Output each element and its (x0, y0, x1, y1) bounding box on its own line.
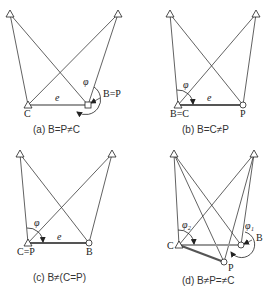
triangle-icon (6, 10, 14, 17)
baseline-label: e (55, 92, 60, 103)
sight-line (243, 14, 256, 105)
circle-icon (221, 259, 227, 265)
pointer-arrow (244, 240, 252, 244)
triangle-icon (252, 10, 260, 17)
point-label-bc: B=C (170, 108, 189, 119)
angle-label-phi2: φ₂ (182, 219, 192, 230)
sight-line (89, 154, 112, 243)
caption-c: (c) B≠(C=P) (33, 272, 86, 283)
panel-c: C=P B φ e (c) B≠(C=P) (16, 150, 116, 283)
pointer-arrow (91, 98, 100, 103)
sight-line (28, 154, 112, 243)
triangle-icon (170, 150, 178, 157)
sight-line (20, 154, 89, 243)
circle-icon (238, 242, 244, 248)
point-label-cp: C=P (17, 246, 35, 257)
angle-label: φ (83, 76, 89, 87)
panel-b: B=C P φ e (b) B=C≠P (166, 10, 260, 135)
triangle-icon (108, 150, 116, 157)
sight-line (10, 14, 28, 105)
point-label-bp: B=P (103, 88, 121, 99)
point-label-p: P (240, 108, 246, 119)
triangle-icon (166, 10, 174, 17)
square-icon (85, 102, 91, 108)
caption-d: (d) B≠P=≠C (182, 275, 234, 286)
sight-line (20, 154, 28, 243)
triangle-icon (16, 150, 24, 157)
triangle-icon (250, 150, 258, 157)
point-label-c: C (167, 240, 174, 251)
point-label-b: B (256, 232, 263, 243)
caption-b: (b) B=C≠P (182, 124, 229, 135)
caption-a: (a) B=P≠C (33, 124, 80, 135)
figure-canvas: C B=P φ e (a) B=P≠C B=C P φ e (b) B=C≠P (0, 0, 273, 296)
angle-label-phi1: φ₁ (245, 220, 254, 231)
panel-a: C B=P φ e (a) B=P≠C (6, 10, 122, 135)
point-label-c: C (24, 108, 31, 119)
point-label-p: P (228, 262, 234, 273)
sight-line (174, 154, 179, 245)
point-label-b: B (86, 246, 93, 257)
angle-label: φ (183, 79, 189, 90)
angle-label: φ (34, 217, 40, 228)
sight-line (170, 14, 178, 105)
baseline-label: e (207, 92, 212, 103)
triangle-icon (114, 10, 122, 17)
sight-line (178, 14, 256, 105)
sight-line (10, 14, 88, 105)
angle-arc (77, 87, 101, 115)
panel-d: C B P φ₂ φ₁ (d) B≠P=≠C (167, 150, 263, 286)
baseline-label: e (57, 231, 62, 242)
sight-line (174, 154, 241, 245)
